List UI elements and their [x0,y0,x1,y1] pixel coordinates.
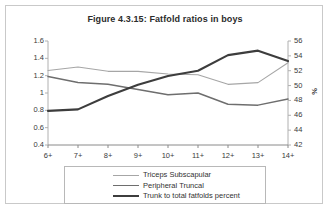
legend-item: Trunk to total fatfolds percent [65,191,265,202]
legend-line-swatch [113,185,139,186]
x-axis-tick-label: 8+ [94,151,122,160]
legend-item: Peripheral Truncal [65,181,265,192]
legend-item-label: Triceps Subscapular [143,170,211,180]
legend-item: Triceps Subscapular [65,170,265,181]
data-series-line [48,77,288,106]
left-axis-tick-label: 0.6 [6,123,44,132]
figure-container: Figure 4.3.15: Fatfold ratios in boys 1.… [0,0,330,211]
legend-item-label: Peripheral Truncal [143,181,204,191]
legend-line-swatch [113,175,139,176]
x-axis-tick-label: 9+ [124,151,152,160]
x-axis-tick-label: 14+ [274,151,302,160]
right-axis-tick-label: 46 [294,110,318,119]
x-axis-tick-label: 10+ [154,151,182,160]
legend-item-label: Trunk to total fatfolds percent [143,191,240,201]
left-axis-tick-label: 1.6 [6,36,44,45]
x-axis-tick-label: 11+ [184,151,212,160]
left-axis-tick-label: 0.8 [6,105,44,114]
data-series-line [48,63,288,85]
x-axis-tick-label: 12+ [214,151,242,160]
left-axis-tick-label: 0.4 [6,140,44,149]
right-axis-tick-label: 52 [294,66,318,75]
x-axis-tick-label: 7+ [64,151,92,160]
right-axis-tick-label: 42 [294,140,318,149]
right-axis-tick-label: 54 [294,51,318,60]
left-axis-tick-label: 1.4 [6,53,44,62]
x-axis-tick-label: 6+ [34,151,62,160]
right-axis-title: % [310,88,319,95]
data-series-line [48,51,288,111]
right-axis-tick-label: 56 [294,36,318,45]
right-axis-tick-label: 44 [294,125,318,134]
legend-line-swatch [113,195,139,197]
right-axis-tick-label: 48 [294,95,318,104]
chart-legend: Triceps Subscapular Peripheral Truncal T… [64,166,266,204]
left-axis-tick-label: 1.2 [6,71,44,80]
x-axis-tick-label: 13+ [244,151,272,160]
left-axis-tick-label: 1 [6,88,44,97]
